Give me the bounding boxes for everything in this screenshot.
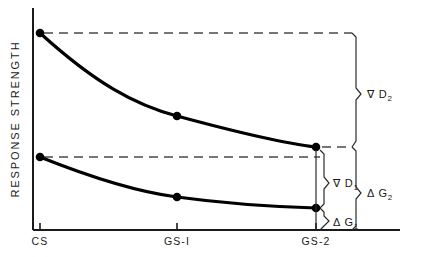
annotation-label-delta-g2: Δ G2	[367, 187, 393, 202]
bracket-delta-d2	[352, 33, 361, 147]
annotation-delta-g2-sub: 2	[388, 193, 393, 202]
x-tick-label-gs1: GS-I	[164, 235, 190, 247]
data-point-lower-cs	[36, 153, 45, 162]
x-tick-label-cs: CS	[32, 235, 49, 247]
annotation-delta-d2-main: ∇ D	[366, 88, 387, 100]
data-point-upper-gs1	[173, 112, 182, 121]
curve-upper-gradient	[40, 33, 316, 147]
annotation-delta-g2-main: Δ G	[367, 187, 388, 199]
y-axis-label: RESPONSE STRENGTH	[9, 41, 21, 198]
annotation-delta-g1-main: Δ G	[333, 216, 354, 228]
data-point-lower-gs1	[173, 193, 182, 202]
chart-canvas: CS GS-I GS-2 RESPONSE STRENGTH ∇ D2 ∇ D1…	[0, 0, 426, 257]
bracket-delta-g1	[320, 208, 329, 230]
data-point-upper-cs	[36, 29, 45, 38]
annotation-delta-d1-sub: 1	[353, 183, 358, 192]
annotation-delta-g1-sub: 1	[354, 222, 359, 231]
x-tick-label-gs2: GS-2	[302, 235, 331, 247]
annotation-label-delta-g1: Δ G1	[333, 216, 359, 231]
annotation-label-delta-d1: ∇ D1	[332, 177, 359, 192]
annotation-delta-d1-main: ∇ D	[332, 177, 353, 189]
annotation-delta-d2-sub: 2	[387, 94, 392, 103]
bracket-delta-d1	[320, 150, 329, 208]
annotation-label-delta-d2: ∇ D2	[366, 88, 393, 103]
generalization-gradient-figure: CS GS-I GS-2 RESPONSE STRENGTH ∇ D2 ∇ D1…	[0, 0, 426, 257]
